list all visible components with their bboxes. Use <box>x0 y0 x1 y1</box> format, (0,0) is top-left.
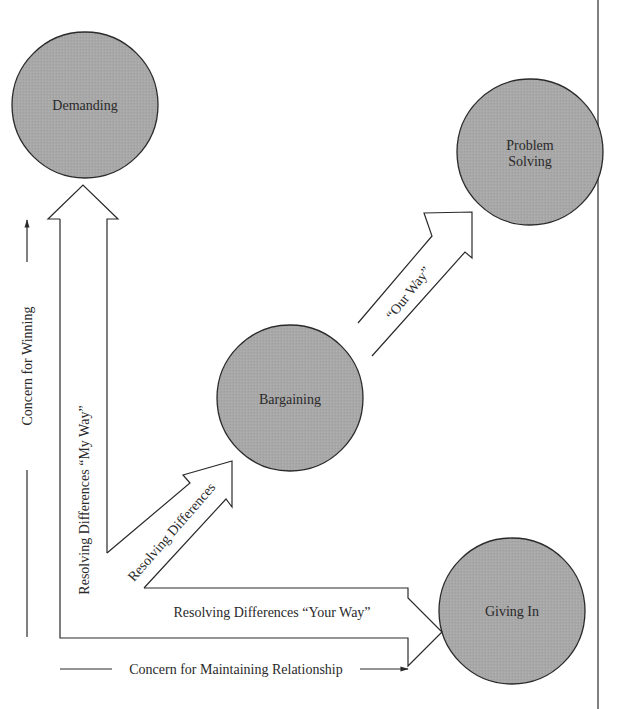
node-demanding: Demanding <box>12 32 158 178</box>
arrow-my-way-label: Resolving Differences “My Way” <box>77 405 92 594</box>
node-bargaining: Bargaining <box>217 325 363 471</box>
conflict-styles-diagram: Demanding Problem Solving Bargaining Giv… <box>0 0 618 709</box>
arrow-resolving-label: Resolving Differences <box>125 480 219 584</box>
y-axis-label: Concern for Winning <box>20 307 35 426</box>
node-giving-in-label: Giving In <box>485 604 539 619</box>
node-bargaining-label: Bargaining <box>259 392 321 407</box>
node-problem-solving-label-line1: Problem <box>506 138 554 153</box>
node-problem-solving: Problem Solving <box>457 79 603 225</box>
node-demanding-label: Demanding <box>52 98 117 113</box>
arrow-our-way-label: “Our Way” <box>383 264 433 323</box>
x-axis-label: Concern for Maintaining Relationship <box>129 662 342 677</box>
node-problem-solving-label-line2: Solving <box>508 154 552 169</box>
arrow-your-way-label: Resolving Differences “Your Way” <box>173 605 370 620</box>
node-giving-in: Giving In <box>439 538 585 684</box>
